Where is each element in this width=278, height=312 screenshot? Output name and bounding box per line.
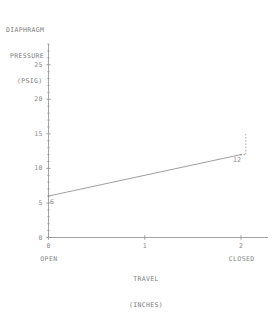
data-series-line <box>49 155 242 196</box>
data-point-label: 6 <box>50 198 54 206</box>
x-tick-label: 0 <box>39 242 59 250</box>
y-tick-label: 20 <box>23 95 43 103</box>
x-axis-title-line-2: (INCHES) <box>96 301 196 310</box>
data-point-label: 12 <box>233 156 241 164</box>
y-tick-label: 25 <box>23 61 43 69</box>
y-tick-label: 10 <box>23 164 43 172</box>
y-tick-label: 5 <box>23 199 43 207</box>
x-tick-label: 2 <box>231 242 251 250</box>
y-tick-label: 0 <box>23 234 43 242</box>
x-tick-label: 1 <box>135 242 155 250</box>
x-state-label: CLOSED <box>229 255 255 263</box>
x-state-label: OPEN <box>40 255 57 263</box>
y-tick-label: 15 <box>23 130 43 138</box>
